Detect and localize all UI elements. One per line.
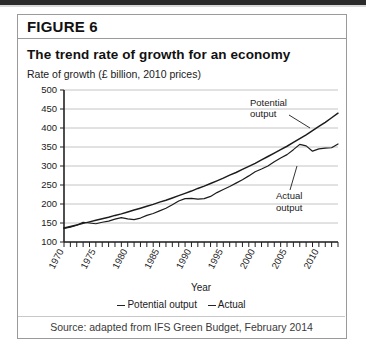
x-axis-tick-label: 2005 — [269, 247, 289, 271]
y-axis-tick-label: 100 — [41, 236, 57, 247]
y-axis-tick-label: 250 — [41, 179, 57, 190]
potential-output-annotation-line1: Potential — [250, 97, 287, 108]
legend-line-swatch-potential — [117, 305, 125, 306]
actual-output-leader-line — [290, 166, 297, 190]
line-chart: 1001502002503003504004505001970197519801… — [18, 82, 345, 314]
potential-output-leader-line — [289, 115, 310, 128]
legend-label-actual: Actual — [218, 299, 246, 310]
y-axis-tick-label: 200 — [41, 198, 57, 209]
x-axis-tick-label: 1985 — [142, 247, 162, 271]
y-axis-tick-label: 450 — [41, 103, 57, 114]
legend-label-potential: Potential output — [127, 299, 197, 310]
y-axis-tick-label: 400 — [41, 122, 57, 133]
actual-output-annotation-line1: Actual — [276, 190, 302, 201]
legend-item-actual: Actual — [208, 299, 246, 310]
legend-line-swatch-actual — [208, 305, 216, 306]
page-top-band-shadow — [0, 5, 366, 7]
x-axis-tick-label: 2000 — [237, 247, 257, 271]
figure-title: The trend rate of growth for an economy — [18, 39, 346, 62]
actual-output-annotation-line2: output — [276, 202, 303, 213]
y-axis-tick-label: 150 — [41, 217, 57, 228]
source-divider — [18, 316, 345, 317]
x-axis-tick-label: 1975 — [78, 247, 98, 271]
x-axis-tick-label: 1990 — [174, 247, 194, 271]
y-axis-tick-label: 500 — [41, 84, 57, 95]
x-axis-tick-label: 1995 — [205, 247, 225, 271]
x-axis-tick-label: 2010 — [301, 247, 321, 271]
source-note: Source: adapted from IFS Green Budget, F… — [18, 321, 345, 333]
figure-label: FIGURE 6 — [27, 18, 98, 35]
figure-header: FIGURE 6 — [18, 15, 346, 39]
y-axis-tick-label: 350 — [41, 141, 57, 152]
y-axis-tick-label: 300 — [41, 160, 57, 171]
x-axis-title: Year — [191, 282, 212, 293]
y-axis-caption: Rate of growth (£ billion, 2010 prices) — [18, 62, 346, 80]
chart-plot-area: 1001502002503003504004505001970197519801… — [18, 82, 348, 314]
figure-container: FIGURE 6 The trend rate of growth for an… — [17, 14, 347, 339]
x-axis-tick-label: 1970 — [46, 247, 66, 271]
legend-item-potential-output: Potential output — [117, 299, 197, 310]
chart-legend: Potential output Actual — [18, 299, 345, 310]
series-line-actual — [64, 144, 338, 228]
potential-output-annotation-line2: output — [250, 108, 277, 119]
x-axis-tick-label: 1980 — [110, 247, 130, 271]
